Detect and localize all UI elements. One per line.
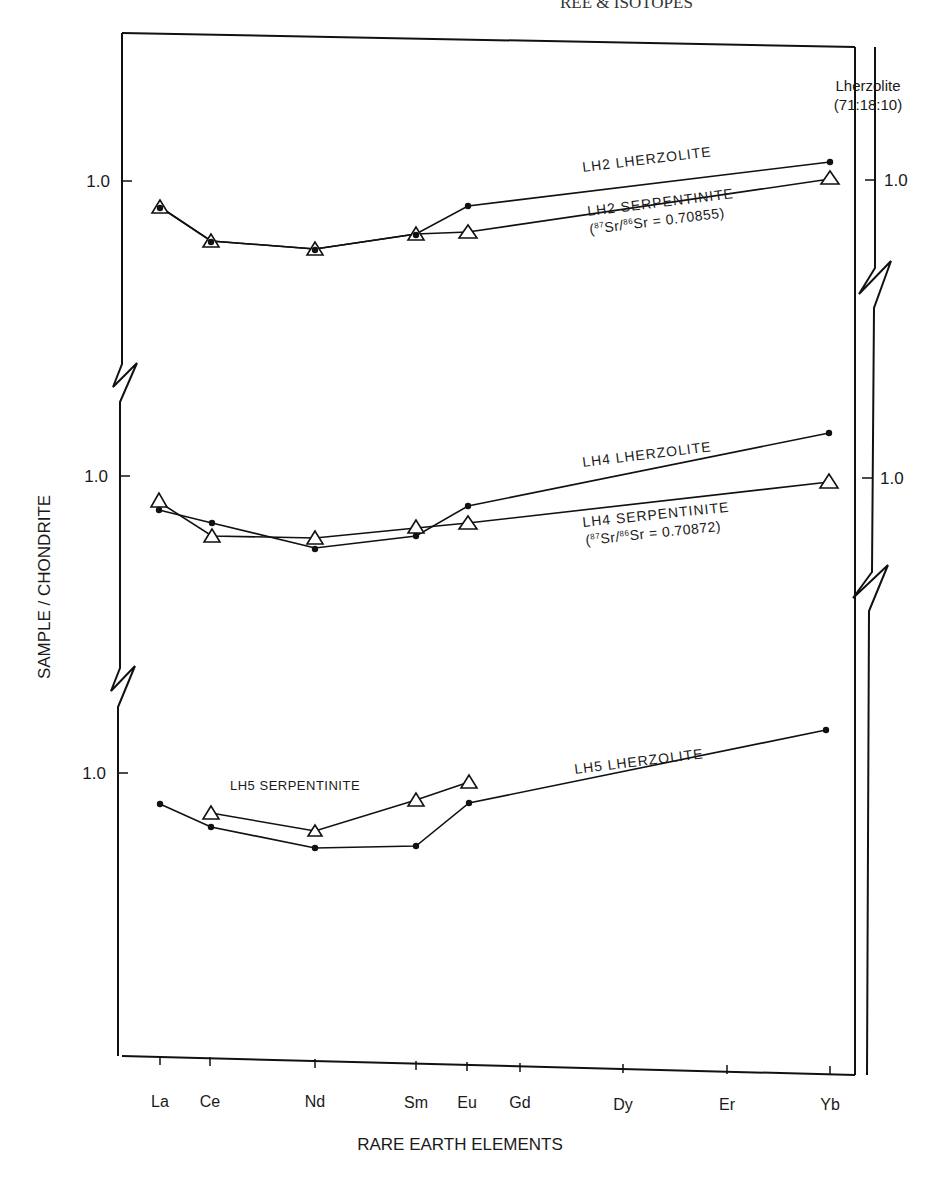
y-axis-label: SAMPLE / CHONDRITE [35, 495, 54, 679]
y-tick-label-right-lh4: 1.0 [880, 469, 904, 488]
y-tick-label-lh5: 1.0 [82, 764, 106, 783]
svg-text:Ce: Ce [200, 1093, 221, 1110]
plot-frame [111, 33, 891, 1075]
svg-text:Yb: Yb [820, 1096, 840, 1113]
y-tick-label-right-lh2: 1.0 [884, 171, 908, 190]
x-axis-label: RARE EARTH ELEMENTS [357, 1135, 563, 1154]
svg-text:Gd: Gd [509, 1094, 530, 1111]
series-lh4-lherzolite [159, 433, 829, 548]
svg-text:Dy: Dy [613, 1096, 633, 1113]
x-tick-labels: La Ce Nd Sm Eu Gd Dy Er Yb [151, 1093, 840, 1113]
svg-text:Nd: Nd [305, 1093, 325, 1110]
y-tick-label-lh2: 1.0 [86, 172, 110, 191]
ree-chart: REE & ISOTOPES 1.0 1.0 1.0 1.0 1.0 SAMPL… [0, 0, 940, 1182]
y-axis-ticks [118, 180, 875, 773]
svg-text:Er: Er [719, 1096, 736, 1113]
svg-text:Sm: Sm [404, 1094, 428, 1111]
label-lh5-lherzolite: LH5 LHERZOLITE [573, 745, 704, 777]
series-lh2-lherzolite [160, 162, 830, 249]
y-tick-label-lh4: 1.0 [84, 467, 108, 486]
label-lherzolite-ratio: (71:18:10) [834, 96, 902, 113]
svg-text:La: La [151, 1093, 169, 1110]
label-lh5-serpentinite: LH5 SERPENTINITE [230, 778, 360, 793]
label-lh4-lherzolite: LH4 LHERZOLITE [581, 438, 712, 470]
label-lh2-lherzolite: LH2 LHERZOLITE [581, 143, 712, 175]
svg-text:Eu: Eu [457, 1094, 477, 1111]
label-lherzolite-corner: Lherzolite [835, 77, 900, 94]
page-header: REE & ISOTOPES [560, 0, 693, 12]
